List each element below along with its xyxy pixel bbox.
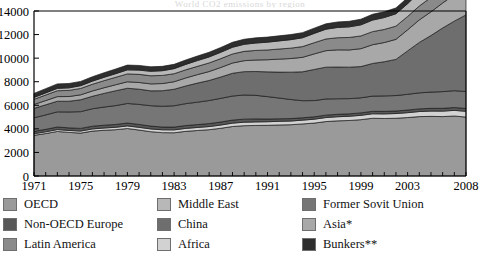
legend-swatch-icon (157, 198, 171, 211)
legend-swatch-icon (302, 198, 316, 211)
chart-title: World CO2 emissions by region (0, 0, 480, 8)
legend-swatch-icon (3, 198, 17, 211)
chart-container: World CO2 emissions by region 0200040006… (0, 0, 480, 259)
legend-item[interactable]: Former Sovit Union (302, 195, 424, 214)
x-tick-label: 1991 (255, 179, 280, 193)
x-tick-label: 1999 (348, 179, 373, 193)
legend-column-2: Middle East China Africa (157, 195, 239, 255)
y-axis-labels: 02000400060008000100001200014000 (0, 5, 29, 184)
x-tick-label: 1971 (22, 179, 47, 193)
legend-label: Middle East (178, 198, 239, 211)
legend-label: Asia* (323, 218, 352, 231)
x-tick-label: 2008 (454, 179, 479, 193)
legend-swatch-icon (302, 238, 316, 251)
y-tick-label: 4000 (4, 122, 29, 136)
legend-label: Bunkers** (323, 238, 377, 251)
x-axis-labels: 1971197519791983198719911995199920032008 (22, 179, 479, 193)
x-tick-label: 1979 (115, 179, 140, 193)
area-series-group (34, 0, 466, 176)
legend-item[interactable]: OECD (3, 195, 123, 214)
stacked-area-plot: 02000400060008000100001200014000 1971197… (0, 0, 480, 195)
legend-item[interactable]: Middle East (157, 195, 239, 214)
legend-label: OECD (24, 198, 58, 211)
legend-label: Africa (178, 238, 210, 251)
legend-item[interactable]: Bunkers** (302, 235, 424, 254)
legend-swatch-icon (302, 218, 316, 231)
legend-label: Non-OECD Europe (24, 218, 123, 231)
legend-swatch-icon (3, 218, 17, 231)
x-tick-label: 2003 (395, 179, 420, 193)
legend-swatch-icon (157, 238, 171, 251)
x-tick-label: 1975 (68, 179, 93, 193)
x-tick-label: 1983 (162, 179, 187, 193)
x-tick-label: 1995 (302, 179, 327, 193)
legend-swatch-icon (3, 238, 17, 251)
legend-label: Former Sovit Union (323, 198, 424, 211)
y-tick-label: 10000 (0, 52, 29, 66)
legend-column-1: OECD Non-OECD Europe Latin America (3, 195, 123, 255)
legend-item[interactable]: Non-OECD Europe (3, 215, 123, 234)
y-tick-label: 2000 (4, 146, 29, 160)
legend-item[interactable]: Africa (157, 235, 239, 254)
x-tick-label: 1987 (208, 179, 233, 193)
y-tick-label: 8000 (4, 75, 29, 89)
legend-swatch-icon (157, 218, 171, 231)
legend-label: China (178, 218, 208, 231)
legend-item[interactable]: Asia* (302, 215, 424, 234)
chart-legend: OECD Non-OECD Europe Latin America Middl… (0, 195, 480, 259)
legend-column-3: Former Sovit Union Asia* Bunkers** (302, 195, 424, 255)
legend-item[interactable]: China (157, 215, 239, 234)
y-tick-label: 6000 (4, 99, 29, 113)
legend-item[interactable]: Latin America (3, 235, 123, 254)
y-tick-label: 12000 (0, 28, 29, 42)
legend-label: Latin America (24, 238, 96, 251)
